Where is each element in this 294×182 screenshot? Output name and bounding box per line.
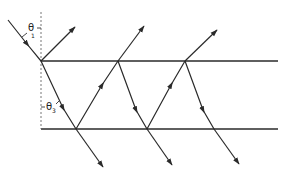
transmitted-ray-3 (214, 129, 239, 164)
theta1-leader (22, 33, 27, 37)
internal-ray-up-2 (147, 61, 185, 129)
reflected-ray-2 (118, 26, 144, 61)
internal-ray-down-3 (185, 61, 214, 129)
internal-ray-up-1 (76, 61, 118, 129)
transmitted-ray-2 (147, 129, 172, 165)
slab-diagram: θ 1 θ 3 (0, 0, 294, 182)
reflected-ray-1 (41, 27, 75, 61)
reflected-ray-3 (185, 30, 217, 61)
internal-ray-down-1 (41, 61, 76, 129)
internal-ray-down-2 (118, 61, 147, 129)
theta1-subscript: 1 (31, 32, 35, 39)
incident-ray (8, 20, 41, 61)
theta3-subscript: 3 (52, 107, 56, 114)
theta3-leader (56, 100, 60, 104)
transmitted-ray-1 (76, 129, 103, 167)
